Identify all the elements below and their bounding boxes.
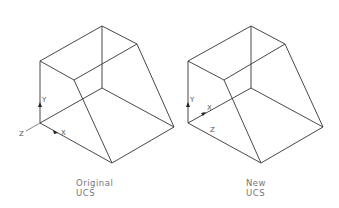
z-axis-label-new: Z — [210, 126, 215, 134]
caption-new-line1: New — [246, 178, 266, 188]
figure-new — [188, 26, 323, 163]
caption-new: New UCS — [246, 178, 266, 198]
caption-original-line1: Original — [76, 178, 113, 188]
z-axis-label-original: Z — [19, 130, 24, 138]
y-axis-label-new: Y — [189, 96, 195, 104]
ucs-diagram: Y X Z Y X Z — [0, 0, 339, 208]
y-axis-label-original: Y — [41, 96, 47, 104]
x-axis-label-original: X — [61, 129, 66, 137]
caption-original: Original UCS — [76, 178, 113, 198]
ucs-icon-new — [186, 102, 206, 116]
figure-original — [26, 26, 174, 163]
x-axis-label-new: X — [207, 104, 212, 112]
caption-new-line2: UCS — [246, 188, 266, 198]
caption-original-line2: UCS — [76, 188, 113, 198]
